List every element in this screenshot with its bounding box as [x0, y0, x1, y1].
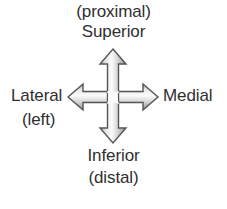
center-junction: [108, 92, 119, 104]
four-way-arrow-cross: [0, 0, 227, 209]
directional-reference-diagram: (proximal) Superior Lateral (left) Media…: [0, 0, 227, 209]
